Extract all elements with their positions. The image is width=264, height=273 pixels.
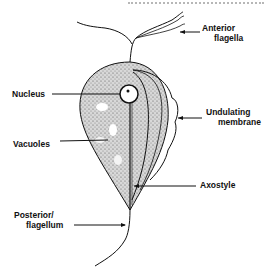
label-nucleus: Nucleus [12, 89, 45, 99]
label-posterior-flagellum: Posterior/ flagellum [14, 210, 63, 230]
label-line-1: Anterior [202, 23, 243, 33]
label-anterior-flagella: Anterior flagella [202, 23, 243, 43]
nucleus [120, 85, 138, 103]
cell-body [80, 62, 168, 210]
label-line-1: Undulating [206, 107, 261, 117]
label-line-1: Posterior/ [14, 210, 63, 220]
label-line-2: flagella [202, 33, 243, 43]
label-line-2: flagellum [14, 220, 63, 230]
label-axostyle: Axostyle [200, 180, 235, 190]
label-vacuoles: Vacuoles [13, 139, 50, 149]
label-undulating-membrane: Undulating membrane [206, 107, 261, 127]
label-line-2: membrane [206, 117, 261, 127]
posterior-flagellum [95, 210, 130, 266]
